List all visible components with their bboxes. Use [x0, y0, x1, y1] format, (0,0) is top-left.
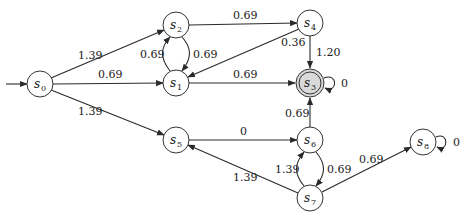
- svg-text:s: s: [304, 191, 310, 205]
- weight-s3-s3: 0: [341, 77, 348, 90]
- weight-s6-s3: 0.69: [285, 107, 310, 120]
- svg-text:2: 2: [177, 25, 182, 34]
- edge-s8-s8: [436, 136, 446, 148]
- weight-s2-s4: 0.69: [233, 9, 258, 22]
- svg-text:s: s: [304, 16, 310, 30]
- svg-text:s: s: [170, 18, 176, 32]
- svg-text:7: 7: [311, 198, 316, 207]
- node-s0: s 0: [27, 71, 53, 97]
- svg-text:1: 1: [177, 83, 182, 92]
- svg-text:0: 0: [41, 84, 46, 93]
- svg-text:s: s: [304, 76, 310, 90]
- edge-s2-s1: [182, 37, 190, 71]
- node-s8: s 8: [410, 129, 436, 155]
- node-s1: s 1: [163, 70, 189, 96]
- svg-text:s: s: [417, 135, 423, 149]
- weight-s2-s1: 0.69: [193, 48, 218, 61]
- svg-text:4: 4: [311, 23, 316, 32]
- edge-s3-s3: [324, 77, 335, 89]
- weight-s7-s5: 1.39: [233, 171, 258, 184]
- svg-text:6: 6: [311, 140, 316, 149]
- weight-s7-s6: 1.39: [275, 163, 300, 176]
- weight-s1-s3: 0.69: [233, 68, 258, 81]
- edge-s6-s7: [316, 152, 324, 186]
- node-s3-final: s 3: [296, 69, 324, 97]
- weight-s4-s1: 0.36: [281, 36, 306, 49]
- weight-s4-s3: 1.20: [316, 46, 341, 59]
- svg-text:s: s: [170, 133, 176, 147]
- node-s7: s 7: [297, 185, 323, 211]
- weight-s0-s2: 1.39: [78, 49, 103, 62]
- weight-s8-s8: 0: [453, 136, 460, 149]
- svg-text:3: 3: [311, 83, 316, 92]
- svg-text:s: s: [34, 77, 40, 91]
- edge-s2-s4: [189, 23, 297, 25]
- node-s5: s 5: [163, 127, 189, 153]
- svg-text:s: s: [170, 76, 176, 90]
- edge-s0-s1: [53, 83, 163, 84]
- node-s6: s 6: [297, 127, 323, 153]
- node-s4: s 4: [297, 10, 323, 36]
- automaton-diagram: 1.39 0.69 1.39 0.69 0.69 0.69 0.36 0.69 …: [0, 0, 474, 222]
- svg-text:s: s: [304, 133, 310, 147]
- weight-s6-s7: 0.69: [327, 163, 352, 176]
- weight-s0-s1: 0.69: [98, 68, 123, 81]
- edge-s0-s5: [51, 90, 164, 135]
- svg-text:8: 8: [424, 142, 429, 151]
- node-s2: s 2: [163, 12, 189, 38]
- weight-s7-s8: 0.69: [359, 153, 384, 166]
- weight-s1-s2: 0.69: [140, 48, 165, 61]
- weight-s0-s5: 1.39: [78, 105, 103, 118]
- svg-text:5: 5: [177, 140, 182, 149]
- weight-s5-s6: 0: [240, 125, 247, 138]
